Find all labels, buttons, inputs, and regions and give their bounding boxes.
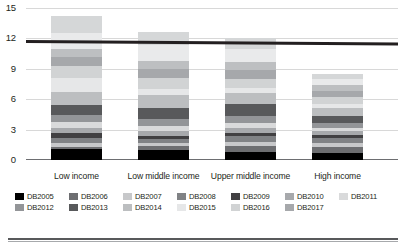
legend-item-db2009[interactable]: DB2009 — [231, 193, 285, 201]
bar-segment — [51, 105, 102, 115]
bar-segment — [51, 66, 102, 78]
stacked-bar — [312, 74, 363, 160]
legend-label: DB2011 — [351, 193, 377, 201]
chart-legend: DB2005DB2006DB2007DB2008DB2009DB2010DB20… — [15, 191, 393, 213]
x-axis-category-label: Low middle income — [116, 171, 211, 181]
bar-segment — [51, 16, 102, 33]
bar-segment — [51, 149, 102, 160]
legend-item-db2014[interactable]: DB2014 — [123, 204, 177, 212]
legend-label: DB2005 — [27, 193, 54, 201]
bar-segment — [51, 78, 102, 92]
bar-segment — [312, 79, 363, 86]
x-axis-category-label: Upper middle income — [203, 171, 298, 181]
footer-divider — [8, 238, 398, 240]
legend-swatch-icon — [69, 193, 78, 200]
bar-segment — [51, 57, 102, 66]
legend-item-db2013[interactable]: DB2013 — [69, 204, 123, 212]
bar-segment — [225, 93, 276, 104]
bar-segment — [312, 97, 363, 105]
legend-swatch-icon — [231, 204, 240, 211]
legend-row: DB2012DB2013DB2014DB2015DB2016DB2017 — [15, 202, 393, 213]
legend-item-db2015[interactable]: DB2015 — [177, 204, 231, 212]
legend-label: DB2013 — [81, 204, 108, 212]
legend-swatch-icon — [123, 193, 132, 200]
bar-segment — [138, 119, 189, 127]
legend-item-db2010[interactable]: DB2010 — [285, 193, 339, 201]
stacked-bar — [225, 38, 276, 160]
y-axis-tick-label: 3 — [0, 125, 16, 135]
bar-segment — [312, 108, 363, 116]
bar-segment — [225, 49, 276, 63]
bar-segment — [225, 62, 276, 70]
y-axis-tick-label: 0 — [0, 155, 16, 165]
x-axis-category-label: High income — [290, 171, 385, 181]
bar-segment — [138, 95, 189, 108]
legend-swatch-icon — [231, 193, 240, 200]
stacked-bar — [51, 16, 102, 160]
bar-segment — [51, 115, 102, 122]
legend-swatch-icon — [15, 204, 24, 211]
gridline — [26, 8, 398, 9]
legend-swatch-icon — [123, 204, 132, 211]
bar-segment — [138, 69, 189, 78]
legend-label: DB2014 — [135, 204, 162, 212]
footer-divider-secondary — [8, 241, 398, 242]
bar-segment — [225, 152, 276, 160]
legend-item-db2017[interactable]: DB2017 — [285, 204, 339, 212]
legend-label: DB2008 — [189, 193, 216, 201]
legend-label: DB2009 — [243, 193, 270, 201]
bar-segment — [51, 49, 102, 58]
stacked-bar — [138, 32, 189, 160]
legend-item-db2007[interactable]: DB2007 — [123, 193, 177, 201]
y-axis-tick-label: 6 — [0, 94, 16, 104]
legend-swatch-icon — [285, 204, 294, 211]
plot-area: 03691215 Low incomeLow middle incomeUppe… — [26, 8, 398, 160]
legend-swatch-icon — [339, 193, 348, 200]
x-axis-category-label: Low income — [29, 171, 124, 181]
bar-segment — [225, 79, 276, 89]
legend-swatch-icon — [15, 193, 24, 200]
legend-label: DB2007 — [135, 193, 162, 201]
bar-segment — [312, 153, 363, 160]
legend-label: DB2016 — [243, 204, 270, 212]
y-axis-tick-label: 15 — [0, 3, 16, 13]
legend-item-db2008[interactable]: DB2008 — [177, 193, 231, 201]
legend-swatch-icon — [285, 193, 294, 200]
legend-swatch-icon — [69, 204, 78, 211]
stacked-bar-chart-figure: 03691215 Low incomeLow middle incomeUppe… — [0, 0, 405, 250]
legend-swatch-icon — [177, 204, 186, 211]
bar-segment — [138, 45, 189, 61]
bar-segment — [138, 150, 189, 160]
bar-segment — [138, 61, 189, 70]
bar-segment — [225, 116, 276, 123]
legend-label: DB2010 — [297, 193, 324, 201]
legend-item-db2005[interactable]: DB2005 — [15, 193, 69, 201]
legend-item-db2012[interactable]: DB2012 — [15, 204, 69, 212]
legend-label: DB2012 — [27, 204, 54, 212]
legend-label: DB2015 — [189, 204, 216, 212]
bar-segment — [225, 104, 276, 116]
y-axis-tick-label: 9 — [0, 64, 16, 74]
legend-item-db2016[interactable]: DB2016 — [231, 204, 285, 212]
bar-segment — [51, 92, 102, 106]
bar-segment — [138, 78, 189, 89]
legend-item-db2011[interactable]: DB2011 — [339, 193, 393, 201]
legend-item-db2006[interactable]: DB2006 — [69, 193, 123, 201]
legend-row: DB2005DB2006DB2007DB2008DB2009DB2010DB20… — [15, 191, 393, 202]
bar-segment — [312, 116, 363, 123]
legend-label: DB2017 — [297, 204, 324, 212]
bar-segment — [225, 70, 276, 79]
legend-label: DB2006 — [81, 193, 108, 201]
bar-segment — [138, 108, 189, 119]
y-axis-tick-label: 12 — [0, 33, 16, 43]
legend-swatch-icon — [177, 193, 186, 200]
